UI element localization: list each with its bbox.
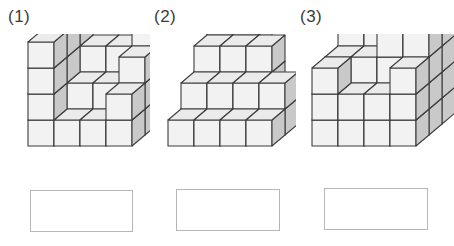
- cube-front-face: [28, 94, 54, 120]
- cube-front-face: [390, 120, 416, 146]
- cube-front-face: [246, 120, 272, 146]
- worksheet-canvas: (1) (2) (3): [0, 0, 454, 246]
- figure-label-3: (3): [300, 8, 322, 25]
- figure-group-1: (1): [0, 0, 150, 246]
- cube-front-face: [390, 68, 416, 94]
- cube-stack-figure-3: [292, 34, 454, 179]
- cube: [246, 109, 285, 146]
- cube: [106, 83, 145, 120]
- cube: [246, 35, 285, 72]
- cube-front-face: [220, 46, 246, 72]
- cube-front-face: [312, 120, 338, 146]
- cube-front-face: [106, 94, 132, 120]
- cube-front-face: [28, 42, 54, 68]
- cube-front-face: [338, 34, 364, 46]
- cube-front-face: [259, 83, 285, 109]
- cube-front-face: [80, 120, 106, 146]
- cube-front-face: [246, 46, 272, 72]
- isometric-cube-drawing: [292, 34, 454, 179]
- cube-front-face: [119, 57, 145, 83]
- answer-box-1[interactable]: [30, 190, 133, 232]
- figure-label-2: (2): [154, 8, 176, 25]
- cube-front-face: [233, 83, 259, 109]
- answer-box-2[interactable]: [176, 189, 280, 231]
- cube-front-face: [377, 34, 403, 57]
- isometric-cube-drawing: [0, 34, 150, 179]
- cube: [390, 57, 429, 94]
- cube-front-face: [390, 94, 416, 120]
- cube-stack-figure-1: [0, 34, 150, 179]
- cube-front-face: [194, 46, 220, 72]
- cube-front-face: [80, 46, 106, 72]
- figure-group-3: (3): [292, 0, 454, 246]
- cube-front-face: [351, 57, 377, 83]
- cube-front-face: [28, 68, 54, 94]
- cube-front-face: [194, 120, 220, 146]
- cube-front-face: [312, 94, 338, 120]
- cube-front-face: [403, 34, 429, 57]
- cube-front-face: [106, 120, 132, 146]
- cube-front-face: [312, 68, 338, 94]
- figure-label-1: (1): [8, 8, 30, 25]
- cube-front-face: [207, 83, 233, 109]
- cube-front-face: [168, 120, 194, 146]
- cube-front-face: [220, 120, 246, 146]
- cube-front-face: [338, 94, 364, 120]
- cube-front-face: [28, 120, 54, 146]
- figure-group-2: (2): [146, 0, 296, 246]
- cube-stack-figure-2: [146, 34, 296, 179]
- cube-front-face: [364, 94, 390, 120]
- cube-front-face: [67, 83, 93, 109]
- cube-front-face: [338, 120, 364, 146]
- cube-front-face: [181, 83, 207, 109]
- cube-front-face: [54, 120, 80, 146]
- cube: [312, 57, 351, 94]
- answer-box-3[interactable]: [324, 188, 428, 230]
- isometric-cube-drawing: [146, 34, 296, 179]
- cube-front-face: [364, 120, 390, 146]
